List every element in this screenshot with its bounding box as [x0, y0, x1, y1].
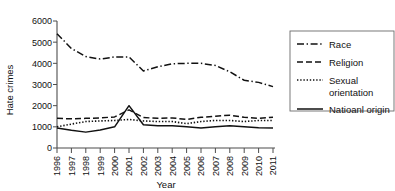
x-tick-label: 2010: [254, 156, 264, 176]
x-tick-label: 2007: [211, 156, 221, 176]
series-line-race: [57, 34, 273, 87]
x-tick-label: 2000: [110, 156, 120, 176]
x-tick-label: 2011: [268, 156, 278, 175]
x-tick-label: 2009: [240, 156, 250, 176]
legend-label-race: Race: [329, 39, 351, 50]
chart-canvas: Hate crimes 0100020003000400050006000 19…: [0, 0, 395, 191]
x-tick-label: 2005: [182, 156, 192, 176]
x-axis-tick-marks: [57, 148, 273, 153]
data-series-group: [57, 34, 273, 132]
legend-label-natioanl-origin: Natioanl origin: [329, 104, 390, 115]
y-tick-label: 0: [47, 143, 52, 153]
y-tick-label: 2000: [32, 101, 52, 111]
x-axis-title: Year: [156, 179, 175, 190]
x-tick-label: 2006: [196, 156, 206, 176]
x-tick-label: 1999: [96, 156, 106, 176]
y-axis-title: Hate crimes: [4, 64, 15, 115]
y-tick-label: 1000: [32, 122, 52, 132]
y-tick-label: 6000: [32, 16, 52, 26]
x-tick-label: 2001: [124, 156, 134, 176]
x-tick-label: 2008: [225, 156, 235, 176]
y-tick-label: 4000: [32, 59, 52, 69]
x-tick-label: 2004: [168, 156, 178, 176]
y-tick-label: 3000: [32, 80, 52, 90]
x-tick-label: 1996: [52, 156, 62, 176]
y-tick-label: 5000: [32, 38, 52, 48]
x-tick-label: 1998: [81, 156, 91, 176]
hate-crimes-line-chart: Hate crimes 0100020003000400050006000 19…: [0, 0, 395, 191]
y-axis-tick-marks: [53, 21, 57, 148]
y-axis-tick-labels: 0100020003000400050006000: [32, 16, 52, 153]
legend-label-sexual: Sexual: [329, 75, 358, 86]
x-axis-tick-labels: 1996199719981999200020012002200320042005…: [52, 156, 278, 176]
x-tick-label: 1997: [67, 156, 77, 176]
legend-label-religion: Religion: [329, 57, 363, 68]
series-line-religion: [57, 110, 273, 120]
x-tick-label: 2002: [139, 156, 149, 176]
x-tick-label: 2003: [153, 156, 163, 176]
legend-label-orientation: orientation: [329, 87, 373, 98]
